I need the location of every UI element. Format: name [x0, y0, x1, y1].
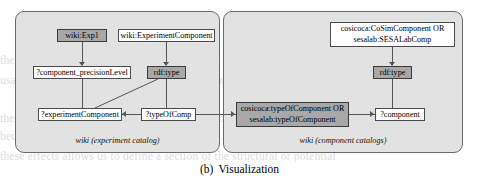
edge-typeofcomp-to-typeofcomponent-predicate — [196, 114, 236, 115]
node-experimentcomponent-variable[interactable]: ?experimentComponent — [38, 108, 122, 121]
node-rdftype-left[interactable]: rdf:type — [147, 66, 186, 79]
edge-rdftype-right-to-component — [392, 79, 393, 111]
node-typeofcomponent-predicate[interactable]: cosicoca:typeOfComponent OR sesalab:type… — [236, 102, 349, 127]
node-wiki-experimentcomponent[interactable]: wiki:ExperimentComponent — [118, 29, 215, 42]
arrowhead-typeofcomp-to-typeofcomponent-predicate — [231, 111, 235, 117]
node-component-precision-level[interactable]: ?component_precisionLevel — [33, 66, 131, 79]
node-cosimcomponent-class-line1: cosicoca:CoSimComponent OR — [341, 24, 445, 34]
arrowhead-typeofcomponent-to-component — [370, 111, 374, 117]
arrowhead-typeofcomp-to-experimentcomponent — [122, 111, 126, 117]
node-rdftype-right[interactable]: rdf:type — [373, 66, 412, 79]
node-wiki-exp1[interactable]: wiki:Exp1 — [57, 29, 107, 42]
node-component-variable[interactable]: ?component — [375, 108, 425, 121]
node-typeofcomponent-predicate-line2: sesalab:typeOfComponent — [250, 115, 336, 125]
node-cosimcomponent-class[interactable]: cosicoca:CoSimComponent OR sesalab:SESAL… — [330, 22, 455, 47]
figure-visualization: the CPU-bound components of the simulati… — [0, 0, 479, 183]
node-typeofcomponent-predicate-line1: cosicoca:typeOfComponent OR — [241, 104, 345, 114]
node-typeofcomp-variable[interactable]: ?typeOfComp — [141, 108, 196, 121]
node-cosimcomponent-class-line2: sesalab:SESALabComp — [354, 35, 432, 45]
